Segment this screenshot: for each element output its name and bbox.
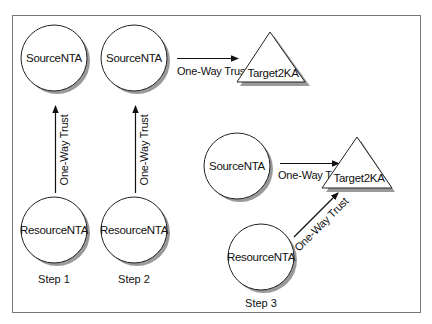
node-label: SourceNTA [106, 52, 163, 64]
step3-label: Step 3 [245, 297, 277, 309]
edge-label: One-Way Trust [177, 65, 248, 77]
step1-label: Step 1 [38, 273, 70, 285]
trust-diagram: SourceNTA One-Way Trust ResourceNTA Step… [0, 0, 432, 324]
step1-trust-edge: One-Way Trust [56, 106, 71, 193]
node-label: Target2KA [334, 172, 386, 184]
node-label: ResourceNTA [227, 251, 296, 263]
node-label: Target2KA [248, 67, 300, 79]
node-label: SourceNTA [209, 160, 266, 172]
step2-trust-edge-vertical: One-Way Trust [136, 106, 151, 193]
edge-label: One-Way Trust [58, 114, 70, 185]
node-label: ResourceNTA [100, 224, 169, 236]
node-label: ResourceNTA [20, 224, 89, 236]
edge-label: One-Way Trust [138, 114, 150, 185]
node-label: SourceNTA [26, 52, 83, 64]
step2-label: Step 2 [118, 273, 150, 285]
